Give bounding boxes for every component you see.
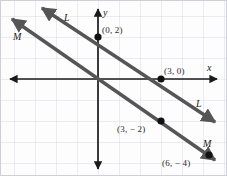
point-label-3-0: (3, 0) bbox=[164, 66, 185, 76]
point-label-3-neg2: (3, − 2) bbox=[117, 124, 145, 134]
point-6-neg4 bbox=[205, 151, 212, 158]
coordinate-plane-figure: x y L L M M (0, 2) (3, 0) (3, − 2) (6, −… bbox=[0, 0, 227, 176]
y-axis-label: y bbox=[103, 7, 107, 18]
x-axis-label: x bbox=[207, 62, 211, 73]
point-3-0 bbox=[157, 75, 164, 82]
point-label-0-2: (0, 2) bbox=[102, 25, 123, 35]
line-m-label-right: M bbox=[203, 138, 211, 149]
line-m-label-left: M bbox=[13, 31, 21, 42]
point-0-2 bbox=[94, 33, 101, 40]
point-label-6-neg4: (6, − 4) bbox=[162, 158, 190, 168]
line-l-label-right: L bbox=[196, 98, 202, 109]
point-3-neg2 bbox=[157, 117, 164, 124]
line-l-label-top: L bbox=[64, 12, 70, 23]
